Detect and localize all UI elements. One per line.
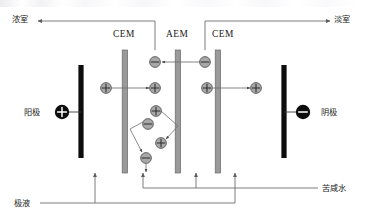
membrane-group bbox=[122, 50, 220, 173]
membrane-cem-1 bbox=[122, 50, 127, 173]
label-brackish-water: 苦咸水 bbox=[322, 184, 347, 192]
label-dilute-chamber: 淡室 bbox=[334, 15, 350, 23]
label-membrane-aem-1: AEM bbox=[166, 30, 188, 39]
electrode-anode-bar bbox=[78, 65, 83, 158]
membrane-aem-1 bbox=[175, 50, 180, 173]
label-membrane-cem-2: CEM bbox=[212, 30, 234, 39]
membrane-cem-2 bbox=[215, 50, 220, 173]
concentrate-outlet-line bbox=[38, 21, 155, 50]
ion-swirl-paths bbox=[130, 111, 178, 172]
brackish-water-piping bbox=[143, 173, 318, 188]
concentrate-outlet-piping bbox=[38, 21, 155, 50]
label-electrode-solution: 极液 bbox=[14, 199, 30, 207]
ion-migration-arrows bbox=[112, 62, 250, 88]
label-concentrate-chamber: 浓室 bbox=[12, 15, 28, 23]
label-cathode: 阴极 bbox=[321, 108, 337, 116]
label-membrane-cem-1: CEM bbox=[113, 30, 135, 39]
label-anode: 阳极 bbox=[24, 108, 40, 116]
diagram-canvas: 浓室 淡室 CEM AEM CEM 阳极 阴极 极液 苦咸水 bbox=[0, 0, 370, 221]
swirl-path-left-out bbox=[130, 122, 143, 129]
electrode-group bbox=[55, 65, 310, 158]
electrode-cathode-bar bbox=[281, 65, 286, 158]
swirl-path-left-down bbox=[130, 129, 142, 152]
